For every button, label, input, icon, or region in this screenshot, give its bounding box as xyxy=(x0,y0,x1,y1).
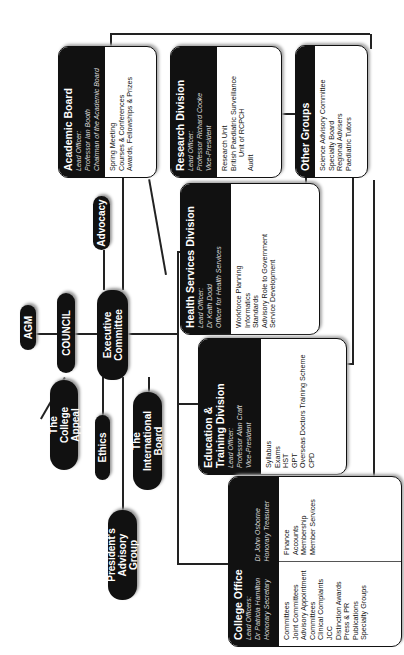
academic-board-items: Spring Meeting Courses & Conferences Awa… xyxy=(105,47,139,177)
officer-role: Honorary Treasurer xyxy=(262,483,271,562)
connector-exec-international xyxy=(148,377,150,392)
other-groups-header: Other Groups xyxy=(296,46,315,177)
officer-name: Professor Richard Cooke xyxy=(195,53,204,171)
college-office-header: College Office Lead Officers: Dr Patrici… xyxy=(229,477,279,646)
advocacy-pill[interactable]: Advocacy xyxy=(93,196,110,250)
org-chart: AGM COUNCIL Executive Committee Advocacy… xyxy=(0,0,404,655)
officer-label: Lead Officer: xyxy=(196,190,205,328)
research-division-items: Research Unit British Paediatric Surveil… xyxy=(217,47,259,177)
connector-academic-other-h2 xyxy=(370,34,372,49)
health-services-title: Health Services Division xyxy=(184,190,196,328)
connector-exec-academic xyxy=(122,177,124,290)
health-services-items: Workforce Planning Informatics Standards… xyxy=(231,184,282,334)
officer-label: Lead Officers: xyxy=(244,483,253,640)
college-appeal-pill[interactable]: The College Appeal xyxy=(50,380,78,470)
list-item: HST xyxy=(282,345,291,468)
connector-other-education xyxy=(352,175,354,365)
council-pill[interactable]: COUNCIL xyxy=(57,293,75,373)
officer-label: Lead Officer: xyxy=(74,53,83,171)
list-item: CPD xyxy=(308,345,317,468)
officer-name: Dr John Osborne xyxy=(253,483,262,562)
education-title: Education & Training Division xyxy=(202,373,226,468)
connector-bus-college-office xyxy=(177,564,229,566)
presidents-advisory-group-pill[interactable]: President's Advisory Group xyxy=(108,510,137,600)
connector-bus-education xyxy=(177,404,199,406)
health-services-header: Health Services Division Lead Officer: D… xyxy=(181,184,231,334)
college-office-box[interactable]: College Office Lead Officers: Dr Patrici… xyxy=(228,476,402,647)
international-board-pill[interactable]: The International Board xyxy=(133,392,162,490)
connector-other-collegeoffice xyxy=(373,180,375,525)
research-division-header: Research Division Lead Officer: Professo… xyxy=(171,47,217,177)
officer-name: Professor Ian Booth xyxy=(83,53,92,171)
officer-role: Chairman of the Academic Board xyxy=(92,53,101,171)
officer-label: Lead Officer: xyxy=(226,345,235,468)
connector-exec-research xyxy=(148,179,166,275)
executive-committee-pill[interactable]: Executive Committee xyxy=(97,290,128,380)
connector-exec-trunk xyxy=(128,334,178,336)
college-office-items-left: Committees Joint Committees Advisory App… xyxy=(279,562,401,646)
ethics-pill[interactable]: Ethics xyxy=(95,415,110,480)
list-item: Overseas Doctors Training Scheme xyxy=(299,345,308,468)
education-header: Education & Training Division Lead Offic… xyxy=(199,339,261,474)
officer-role: Honorary Secretary xyxy=(262,562,271,641)
agm-pill[interactable]: AGM xyxy=(20,305,36,350)
other-groups-items: Science Advisory Committee Specialty Boa… xyxy=(315,46,357,177)
health-services-division-box[interactable]: Health Services Division Lead Officer: D… xyxy=(180,183,320,335)
officer-role: Vice-President xyxy=(244,345,253,468)
education-items: Syllabus Exams HST GPT Overseas Doctors … xyxy=(261,339,321,474)
officer-role: Vice-President xyxy=(204,53,213,171)
academic-board-box[interactable]: Academic Board Lead Officer: Professor I… xyxy=(58,46,157,178)
connector-exec-advocacy xyxy=(103,250,105,290)
list-item: Awards, Fellowships & Prizes xyxy=(126,53,135,171)
college-office-columns: Committees Joint Committees Advisory App… xyxy=(279,477,401,646)
research-division-title: Research Division xyxy=(174,53,186,171)
officer-name: Dr Keith Dodd xyxy=(205,190,214,328)
officer-role: Officer for Health Services xyxy=(214,190,223,328)
research-division-box[interactable]: Research Division Lead Officer: Professo… xyxy=(170,46,282,178)
academic-board-title: Academic Board xyxy=(62,53,74,171)
officer-label: Lead Officer: xyxy=(186,53,195,171)
list-item: Service Development xyxy=(269,190,278,328)
college-office-officers: Dr Patricia Hamilton Honorary Secretary … xyxy=(253,483,271,640)
list-item: Unit of RCPCH xyxy=(238,53,247,171)
college-office-title: College Office xyxy=(232,483,244,640)
connector-academic-other-top xyxy=(110,34,370,36)
list-item: Paediatric Tutors xyxy=(345,52,354,171)
list-item: Specialty Groups xyxy=(360,568,369,640)
other-groups-box[interactable]: Other Groups Science Advisory Committee … xyxy=(295,45,368,178)
connector-main-bus xyxy=(177,252,179,565)
college-office-items-right: Finance Accounts Membership Member Servi… xyxy=(279,477,401,562)
education-training-division-box[interactable]: Education & Training Division Lead Offic… xyxy=(198,338,347,475)
list-item: Member Services xyxy=(309,483,318,555)
connector-exec-presidents xyxy=(122,377,124,510)
list-item: Exams xyxy=(274,345,283,468)
connector-exec-ethics xyxy=(102,377,104,415)
other-groups-title: Other Groups xyxy=(299,52,311,171)
officer-name: Professor Alan Craft xyxy=(235,345,244,468)
academic-board-header: Academic Board Lead Officer: Professor I… xyxy=(59,47,105,177)
list-item: Audit xyxy=(247,53,256,171)
officer-name: Dr Patricia Hamilton xyxy=(253,562,262,641)
